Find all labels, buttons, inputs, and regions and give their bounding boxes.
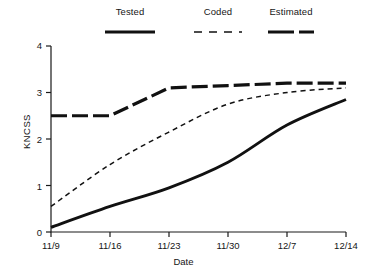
- x-tick-label-4: 11/30: [206, 240, 250, 251]
- data-series-layer: [51, 83, 346, 227]
- series-line-coded: [51, 88, 346, 207]
- x-tick-label-5: 12/7: [265, 240, 309, 251]
- x-tick-label-2: 11/16: [88, 240, 132, 251]
- series-line-tested: [51, 99, 346, 227]
- y-axis-title: KNCSS: [21, 102, 32, 162]
- x-axis-title: Date: [0, 256, 367, 267]
- x-tick-label-3: 11/23: [147, 240, 191, 251]
- series-line-estimated: [51, 83, 346, 116]
- plot-area: [0, 0, 367, 276]
- axis-spine: [51, 46, 346, 232]
- y-tick-label-0: 0: [28, 227, 42, 238]
- x-tick-label-1: 11/9: [29, 240, 73, 251]
- chart-container: Tested Coded Estimated: [0, 0, 367, 276]
- y-tick-label-1: 1: [28, 181, 42, 192]
- x-tick-label-6: 12/14: [324, 240, 367, 251]
- axis-lines: [46, 46, 346, 237]
- y-tick-label-4: 4: [28, 40, 42, 51]
- y-tick-label-3: 3: [28, 87, 42, 98]
